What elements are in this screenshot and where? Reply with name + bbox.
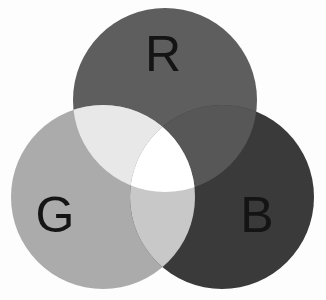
venn-diagram-canvas: R G B — [0, 0, 326, 300]
venn-label-g: G — [36, 187, 75, 243]
venn-label-b: B — [240, 187, 273, 243]
venn-label-r: R — [145, 26, 181, 82]
venn-diagram-svg: R G B — [0, 0, 326, 300]
